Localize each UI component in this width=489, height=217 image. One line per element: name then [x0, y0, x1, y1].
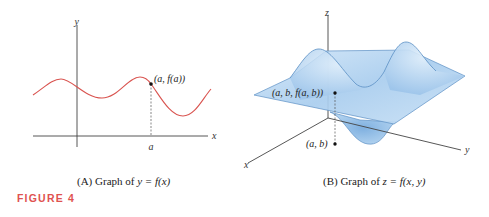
panel-a-caption: (A) Graph of y = f(x) — [77, 175, 170, 187]
plane-point-label: (a, b) — [306, 138, 328, 150]
panel-a-caption-prefix: (A) Graph of — [77, 175, 137, 187]
y-axis-label: y — [74, 16, 80, 27]
surface-hump-right — [384, 42, 465, 95]
surface-point-label: (a, b, f(a, b)) — [272, 87, 324, 99]
y-axis-label-3d: y — [464, 144, 470, 155]
panel-b-caption-math: z = f(x, y) — [383, 175, 426, 187]
panel-b-caption: (B) Graph of z = f(x, y) — [323, 175, 425, 187]
x-axis-label: x — [211, 130, 217, 141]
plane-point-marker — [333, 142, 336, 145]
panel-a-caption-math: y = f(x) — [137, 175, 170, 187]
panel-b-caption-prefix: (B) Graph of — [323, 175, 383, 187]
x-axis-label-3d: x — [243, 159, 249, 170]
tick-label-a: a — [149, 141, 154, 152]
figure-label: FIGURE 4 — [17, 192, 75, 204]
point-label: (a, f(a)) — [154, 73, 186, 85]
point-marker — [149, 82, 153, 86]
panel-a-graph: y x (a, f(a)) a — [33, 16, 217, 152]
panel-b-graph: z x y (a, b, f(a, b)) (a, b) — [243, 7, 470, 170]
surface-point-marker — [333, 91, 336, 94]
z-axis-label: z — [324, 7, 329, 18]
